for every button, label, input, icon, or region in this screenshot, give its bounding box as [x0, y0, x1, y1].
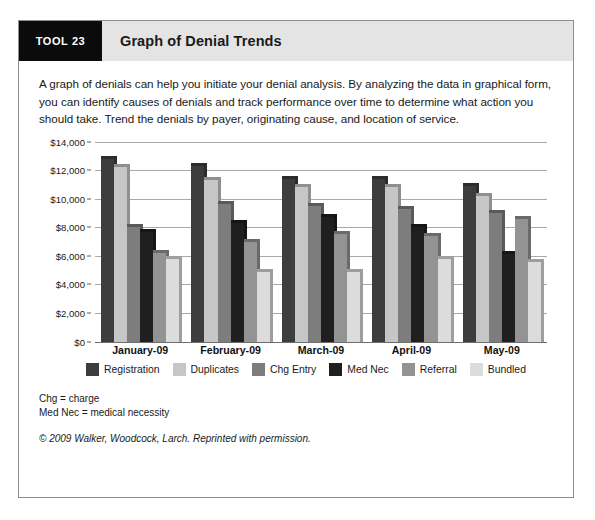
- bar[interactable]: [528, 262, 541, 342]
- legend-swatch-icon: [402, 363, 415, 376]
- denial-trends-chart: $14,000$12,000$10,000$8,000$6,000$4,000$…: [39, 142, 553, 357]
- bar[interactable]: [372, 179, 385, 342]
- legend-item[interactable]: Med Nec: [329, 363, 389, 376]
- bar-slot: [334, 142, 347, 342]
- footnotes: Chg = charge Med Nec = medical necessity: [39, 392, 553, 420]
- x-axis-tick-label: March-09: [276, 344, 366, 356]
- bar-slot: [438, 142, 451, 342]
- bar-slot: [257, 142, 270, 342]
- bar-slot: [398, 142, 411, 342]
- bar-side-face: [541, 259, 544, 342]
- bar-slot: [515, 142, 528, 342]
- bar-slot: [385, 142, 398, 342]
- bar[interactable]: [231, 223, 244, 342]
- bar[interactable]: [295, 187, 308, 341]
- bar[interactable]: [502, 254, 515, 341]
- legend-label: Referral: [420, 364, 457, 375]
- bar[interactable]: [438, 259, 451, 342]
- bar-slot: [502, 142, 515, 342]
- y-axis-tick-label: $12,000: [50, 165, 85, 176]
- legend-item[interactable]: Chg Entry: [252, 363, 316, 376]
- bar-group: [185, 142, 275, 342]
- bar[interactable]: [204, 180, 217, 341]
- legend-item[interactable]: Referral: [402, 363, 457, 376]
- chart-legend: RegistrationDuplicatesChg EntryMed NecRe…: [39, 363, 553, 376]
- bar[interactable]: [489, 213, 502, 342]
- legend-item[interactable]: Bundled: [470, 363, 526, 376]
- bar-slot: [347, 142, 360, 342]
- intro-paragraph: A graph of denials can help you initiate…: [39, 75, 553, 128]
- legend-label: Registration: [104, 364, 159, 375]
- bar[interactable]: [347, 272, 360, 342]
- bar-slot: [114, 142, 127, 342]
- bar[interactable]: [166, 259, 179, 342]
- footnote-chg: Chg = charge: [39, 392, 553, 406]
- bar-group: [95, 142, 185, 342]
- legend-swatch-icon: [329, 363, 342, 376]
- bar[interactable]: [385, 187, 398, 341]
- y-axis-tick-mark: [87, 341, 91, 342]
- x-axis-tick-label: April-09: [366, 344, 456, 356]
- bar-slot: [476, 142, 489, 342]
- bar-slot: [411, 142, 424, 342]
- x-axis-tick-label: January-09: [95, 344, 185, 356]
- legend-swatch-icon: [173, 363, 186, 376]
- bar-slot: [424, 142, 437, 342]
- legend-label: Chg Entry: [270, 364, 316, 375]
- bar-slot: [489, 142, 502, 342]
- bar[interactable]: [257, 272, 270, 342]
- bar[interactable]: [334, 234, 347, 341]
- bar[interactable]: [321, 217, 334, 341]
- bar-side-face: [270, 269, 273, 342]
- bar[interactable]: [127, 227, 140, 341]
- bar-group: [457, 142, 547, 342]
- bar-group: [276, 142, 366, 342]
- legend-item[interactable]: Duplicates: [173, 363, 240, 376]
- bar[interactable]: [282, 179, 295, 342]
- bar[interactable]: [411, 227, 424, 341]
- bar[interactable]: [515, 219, 528, 342]
- bar[interactable]: [140, 232, 153, 342]
- bar-slot: [308, 142, 321, 342]
- bar-slot: [153, 142, 166, 342]
- bar-slot: [204, 142, 217, 342]
- legend-item[interactable]: Registration: [86, 363, 159, 376]
- bar-slot: [372, 142, 385, 342]
- y-axis-tick-label: $10,000: [50, 193, 85, 204]
- bar[interactable]: [463, 186, 476, 342]
- bar[interactable]: [101, 159, 114, 342]
- bar[interactable]: [244, 242, 257, 342]
- bar[interactable]: [114, 167, 127, 341]
- axis-baseline: [95, 342, 547, 343]
- plot-area: [95, 142, 547, 342]
- bar[interactable]: [476, 196, 489, 342]
- bar[interactable]: [153, 253, 166, 342]
- bar[interactable]: [424, 236, 437, 342]
- y-axis-tick-mark: [87, 312, 91, 313]
- page-title: Graph of Denial Trends: [102, 21, 573, 61]
- bar-slot: [218, 142, 231, 342]
- y-axis-tick-label: $0: [74, 336, 85, 347]
- bar-slot: [321, 142, 334, 342]
- bar[interactable]: [191, 166, 204, 342]
- legend-label: Bundled: [488, 364, 526, 375]
- bar[interactable]: [398, 209, 411, 342]
- x-axis-tick-label: May-09: [457, 344, 547, 356]
- bar-groups: [95, 142, 547, 342]
- y-axis-tick-mark: [87, 141, 91, 142]
- tool-number-badge: TOOL 23: [19, 21, 102, 61]
- bar-slot: [101, 142, 114, 342]
- bar-slot: [528, 142, 541, 342]
- legend-swatch-icon: [86, 363, 99, 376]
- x-axis-tick-label: February-09: [185, 344, 275, 356]
- tool-card: TOOL 23 Graph of Denial Trends A graph o…: [18, 20, 574, 498]
- bar-slot: [140, 142, 153, 342]
- y-axis-tick-label: $6,000: [56, 250, 85, 261]
- x-axis: January-09February-09March-09April-09May…: [95, 344, 547, 356]
- bar[interactable]: [218, 204, 231, 341]
- card-header: TOOL 23 Graph of Denial Trends: [19, 21, 573, 61]
- y-axis-tick-mark: [87, 170, 91, 171]
- bar[interactable]: [308, 206, 321, 342]
- legend-swatch-icon: [470, 363, 483, 376]
- y-axis-tick-mark: [87, 284, 91, 285]
